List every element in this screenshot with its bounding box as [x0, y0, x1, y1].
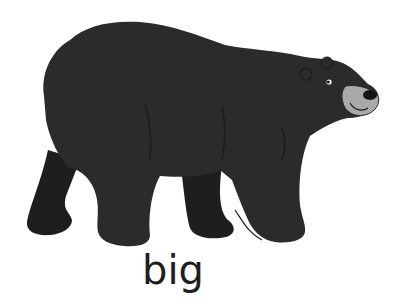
bear-ear	[321, 57, 333, 69]
caption-word: big	[0, 247, 346, 293]
bear-eye-pupil	[327, 80, 330, 83]
bear-nose	[363, 90, 377, 100]
